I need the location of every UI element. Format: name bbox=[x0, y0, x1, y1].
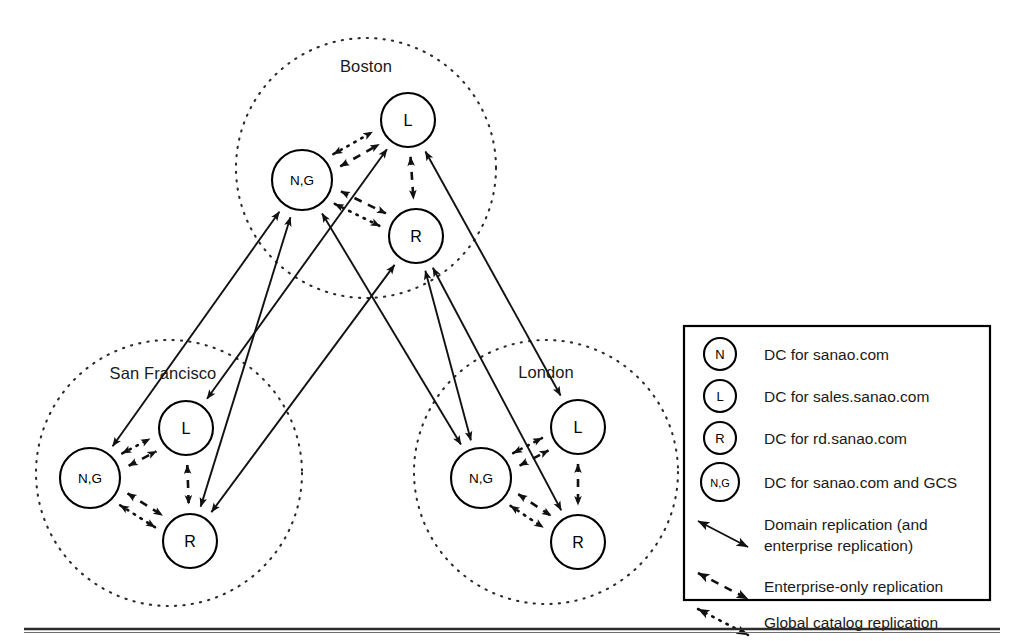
legend-symbol-node-r: R bbox=[715, 431, 724, 446]
intra-site-link-boston-ng-to-boston-l-dashed bbox=[340, 144, 379, 166]
replication-topology-figure: N,GLRN,GLRN,GLR BostonSan FranciscoLondo… bbox=[0, 0, 1022, 641]
dc-node-boston-ng[interactable]: N,G bbox=[272, 150, 332, 210]
legend-text-node-n: DC for sanao.com bbox=[764, 346, 889, 363]
intra-site-link-sf-ng-to-sf-l-dashed bbox=[129, 451, 157, 465]
intra-site-link-london-ng-to-london-l-dotted bbox=[513, 438, 542, 453]
legend-text-node-r: DC for rd.sanao.com bbox=[764, 430, 907, 447]
legend-symbol-node-ng: N,G bbox=[710, 477, 730, 489]
dc-node-label-boston-ng: N,G bbox=[290, 173, 314, 188]
intra-site-link-sf-ng-to-sf-r-dotted bbox=[120, 505, 155, 527]
dc-node-sf-ng[interactable]: N,G bbox=[60, 448, 120, 508]
legend-symbol-node-n: N bbox=[715, 347, 724, 362]
site-label-san-francisco: San Francisco bbox=[110, 364, 217, 382]
legend-text-node-l: DC for sales.sanao.com bbox=[764, 388, 929, 405]
intra-site-link-sf-ng-to-sf-l-dotted bbox=[122, 439, 150, 453]
topology-canvas: N,GLRN,GLRN,GLR BostonSan FranciscoLondo… bbox=[0, 0, 1022, 641]
dc-node-london-l[interactable]: L bbox=[551, 400, 605, 454]
legend-text-arrow-solid-line2: enterprise replication) bbox=[764, 537, 913, 554]
dc-node-label-sf-r: R bbox=[184, 533, 196, 550]
footer-rule-layer bbox=[24, 629, 1000, 633]
dc-node-boston-r[interactable]: R bbox=[389, 209, 443, 263]
site-label-london: London bbox=[518, 363, 574, 381]
intra-site-link-sf-ng-to-sf-r-dashed bbox=[128, 493, 163, 515]
inter-site-link-boston-l-to-london-l bbox=[425, 151, 560, 395]
intra-site-link-sf-l-to-sf-r-dashed bbox=[187, 465, 188, 504]
dc-node-sf-l[interactable]: L bbox=[159, 401, 213, 455]
dc-node-label-sf-ng: N,G bbox=[78, 471, 102, 486]
intra-site-link-london-ng-to-london-r-dotted bbox=[511, 506, 544, 528]
dc-node-label-sf-l: L bbox=[182, 420, 191, 437]
intra-site-link-boston-l-to-boston-r-dashed bbox=[411, 157, 414, 199]
dc-node-label-london-r: R bbox=[572, 534, 584, 551]
legend-entry-arrow-dotted: Global catalog replication bbox=[698, 609, 938, 635]
intra-site-link-london-ng-to-london-l-dashed bbox=[520, 450, 549, 465]
dc-node-boston-l[interactable]: L bbox=[381, 93, 435, 147]
legend-text-arrow-solid-line1: Domain replication (and bbox=[764, 516, 928, 533]
legend-text-node-ng: DC for sanao.com and GCS bbox=[764, 474, 957, 491]
site-label-boston: Boston bbox=[340, 57, 392, 75]
dc-node-label-london-l: L bbox=[574, 419, 583, 436]
dc-node-label-boston-r: R bbox=[410, 228, 422, 245]
legend-symbol-node-l: L bbox=[716, 389, 723, 404]
dc-node-label-boston-l: L bbox=[404, 112, 413, 129]
legend-layer: NDC for sanao.comLDC for sales.sanao.com… bbox=[684, 326, 990, 635]
legend-text-arrow-dashed-line1: Enterprise-only replication bbox=[764, 578, 943, 595]
arrow-dotted-icon bbox=[698, 609, 748, 635]
dc-node-label-london-ng: N,G bbox=[469, 471, 493, 486]
dc-node-london-r[interactable]: R bbox=[551, 515, 605, 569]
intra-site-link-london-ng-to-london-r-dashed bbox=[518, 494, 551, 516]
site-label-layer: BostonSan FranciscoLondon bbox=[110, 57, 574, 382]
dc-node-london-ng[interactable]: N,G bbox=[451, 448, 511, 508]
inter-site-link-boston-r-to-sf-r bbox=[211, 265, 394, 512]
dc-node-sf-r[interactable]: R bbox=[163, 514, 217, 568]
